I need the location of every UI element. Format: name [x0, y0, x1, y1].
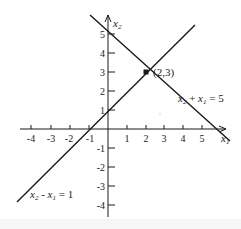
intersection-label: (2,3) — [153, 66, 174, 79]
x1-tick-marks — [31, 125, 202, 129]
intersection-point-marker — [144, 70, 149, 75]
x2-tick-label: -4 — [97, 200, 105, 211]
line-x2-plus-x1-eq-5 — [90, 15, 230, 141]
x2-tick-marks — [108, 34, 115, 205]
x1-tick-label: 2 — [144, 133, 149, 144]
line-x2-minus-x1-eq-1 — [17, 25, 195, 202]
equation-label-x2-plus-x1: x2 + x1 = 5 — [177, 92, 224, 106]
x1-tick-label: 5 — [200, 133, 205, 144]
x1-tick-label: 4 — [181, 133, 186, 144]
stray-dot — [159, 113, 160, 114]
coordinate-plane-diagram: -4 -3 -2 -1 1 2 3 4 5 x1 5 4 — [0, 0, 241, 229]
x2-tick-labels: 5 4 3 2 1 -1 -2 -3 -4 — [97, 29, 105, 211]
x2-tick-label: 5 — [100, 29, 105, 40]
x2-axis-label: x2 — [112, 17, 122, 31]
x1-tick-label: 1 — [125, 133, 130, 144]
x1-tick-label: -4 — [27, 133, 35, 144]
x1-tick-label: -2 — [65, 133, 73, 144]
x2-tick-label: 3 — [100, 67, 105, 78]
x2-tick-label: 4 — [100, 48, 105, 59]
x1-tick-labels: -4 -3 -2 -1 1 2 3 4 5 — [27, 133, 205, 144]
x2-axis: 5 4 3 2 1 -1 -2 -3 -4 x2 — [97, 15, 122, 217]
x1-axis: -4 -3 -2 -1 1 2 3 4 5 x1 — [20, 125, 229, 146]
x2-tick-label: 2 — [100, 86, 105, 97]
x1-tick-label: 3 — [162, 133, 167, 144]
x2-tick-label: -2 — [97, 162, 105, 173]
x2-tick-label: -3 — [97, 181, 105, 192]
x1-tick-label: -3 — [47, 133, 55, 144]
x2-tick-label: -1 — [97, 143, 105, 154]
x1-tick-label: -1 — [86, 133, 94, 144]
equation-label-x2-minus-x1: x2 - x1 = 1 — [29, 188, 73, 202]
